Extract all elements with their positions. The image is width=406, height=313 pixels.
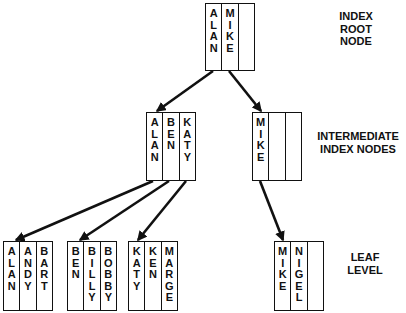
intermediate-node: ALAN BEN KATY	[146, 112, 196, 181]
key-letter: Y	[184, 152, 191, 164]
leaf-key-cell: BILLY	[84, 242, 100, 310]
pointer-arrow	[157, 71, 213, 111]
key-letter: R	[40, 269, 48, 281]
leaf-node: BEN BILLY BOBBY	[67, 241, 117, 311]
leaf-key-cell: KATY	[129, 242, 145, 310]
leaf-key-cell: ALAN	[4, 242, 20, 310]
key-letter: T	[184, 140, 191, 152]
key-letter: B	[167, 117, 175, 129]
intermediate-key-cell: ALAN	[147, 113, 163, 180]
key-letter: E	[226, 43, 233, 55]
key-letter: N	[167, 140, 175, 152]
pointer-arrow	[80, 181, 169, 240]
leaf-node: MIKE NIGEL	[274, 241, 324, 311]
label-line: NODE	[330, 35, 382, 48]
key-letter: K	[133, 246, 141, 258]
pointer-arrow	[16, 181, 153, 240]
key-letter: K	[183, 117, 191, 129]
key-letter: A	[151, 117, 159, 129]
key-letter: Y	[24, 281, 31, 293]
key-letter: K	[257, 140, 265, 152]
leaf-key-cell	[308, 242, 323, 310]
leaf-key-cell: MIKE	[275, 242, 291, 310]
leaf-key-cell: ANDY	[20, 242, 36, 310]
leaf-key-cell: NIGEL	[291, 242, 307, 310]
label-line: ROOT	[330, 23, 382, 36]
key-letter: Y	[88, 292, 95, 304]
pointer-arrow	[138, 181, 186, 240]
leaf-key-cell: BOBBY	[101, 242, 116, 310]
leaf-key-cell: BART	[37, 242, 52, 310]
key-letter: E	[257, 152, 264, 164]
leaf-level-label: LEAF LEVEL	[343, 251, 387, 276]
leaf-key-cell: MARGE	[162, 242, 177, 310]
key-letter: N	[149, 269, 157, 281]
intermediate-key-cell: MIKE	[253, 113, 269, 180]
key-letter: N	[72, 269, 80, 281]
leaf-key-cell: KEN	[145, 242, 161, 310]
pointer-arrow	[260, 181, 283, 240]
intermediate-key-cell	[286, 113, 301, 180]
key-letter: R	[165, 269, 173, 281]
key-letter: B	[88, 246, 96, 258]
key-letter: T	[41, 281, 48, 293]
root-key-cell: MIKE	[222, 4, 238, 70]
key-letter: K	[226, 31, 234, 43]
leaf-key-cell: BEN	[68, 242, 84, 310]
key-letter: B	[40, 246, 48, 258]
key-letter: M	[225, 8, 234, 20]
leaf-node: ALAN ANDY BART	[3, 241, 53, 311]
key-letter: N	[210, 43, 218, 55]
label-line: LEVEL	[343, 264, 387, 277]
key-letter: A	[151, 140, 159, 152]
key-letter: N	[8, 281, 16, 293]
key-letter: Y	[133, 281, 140, 293]
root-key-cell	[239, 4, 254, 70]
root-level-label: INDEX ROOT NODE	[330, 10, 382, 48]
key-letter: E	[279, 281, 286, 293]
label-line: LEAF	[343, 251, 387, 264]
key-letter: E	[166, 292, 173, 304]
key-letter: A	[210, 8, 218, 20]
pointer-arrow	[229, 71, 261, 111]
label-line: INTERMEDIATE	[313, 130, 403, 143]
root-node: ALAN MIKE	[205, 3, 255, 71]
key-letter: D	[24, 269, 32, 281]
key-letter: A	[8, 269, 16, 281]
label-line: INDEX NODES	[313, 143, 403, 156]
intermediate-key-cell: BEN	[163, 113, 179, 180]
key-letter: T	[133, 269, 140, 281]
intermediate-key-cell	[269, 113, 285, 180]
key-letter: M	[256, 117, 265, 129]
key-letter: K	[279, 269, 287, 281]
key-letter: A	[210, 31, 218, 43]
label-line: INDEX	[330, 10, 382, 23]
key-letter: B	[104, 269, 112, 281]
key-letter: L	[89, 269, 96, 281]
intermediate-level-label: INTERMEDIATE INDEX NODES	[313, 130, 403, 155]
key-letter: N	[151, 152, 159, 164]
intermediate-node: MIKE	[252, 112, 302, 181]
key-letter: M	[278, 246, 287, 258]
leaf-node: KATY KEN MARGE	[128, 241, 178, 311]
key-letter: B	[104, 246, 112, 258]
key-letter: L	[296, 292, 303, 304]
key-letter: N	[295, 246, 303, 258]
key-letter: A	[24, 246, 32, 258]
root-key-cell: ALAN	[206, 4, 222, 70]
key-letter: M	[165, 246, 174, 258]
key-letter: B	[72, 246, 80, 258]
key-letter: Y	[105, 292, 112, 304]
key-letter: K	[149, 246, 157, 258]
intermediate-key-cell: KATY	[180, 113, 195, 180]
key-letter: G	[295, 269, 304, 281]
key-letter: A	[8, 246, 16, 258]
